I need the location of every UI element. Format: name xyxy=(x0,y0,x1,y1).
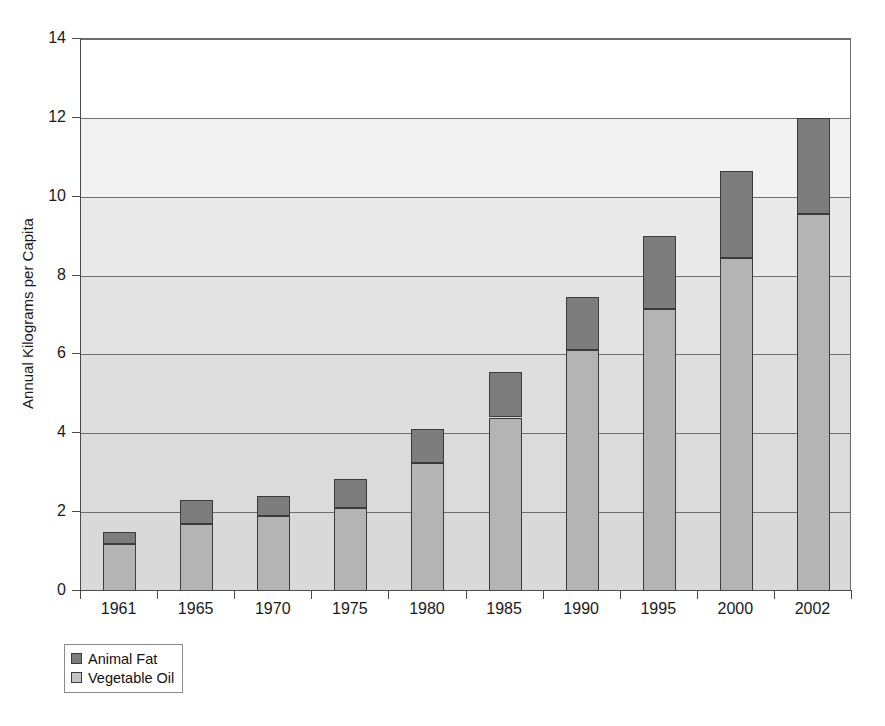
y-axis-tick-label: 12 xyxy=(26,108,66,126)
plot-area xyxy=(80,38,851,590)
bar-segment-vegetable-oil xyxy=(103,544,136,591)
x-axis-tick-label: 2000 xyxy=(700,600,770,618)
bar-group xyxy=(411,39,444,591)
x-axis-tick xyxy=(466,591,467,599)
x-axis-tick-label: 1995 xyxy=(623,600,693,618)
bar-group xyxy=(334,39,367,591)
x-axis-tick xyxy=(774,591,775,599)
y-axis-tick xyxy=(72,275,80,276)
bar-segment-vegetable-oil xyxy=(720,258,753,591)
y-axis-tick xyxy=(72,196,80,197)
x-axis-tick xyxy=(234,591,235,599)
y-axis-title: Annual Kilograms per Capita xyxy=(19,184,36,444)
x-axis-tick xyxy=(80,591,81,599)
bar-segment-vegetable-oil xyxy=(334,508,367,591)
y-axis-tick-label: 0 xyxy=(26,581,66,599)
y-axis-tick xyxy=(72,511,80,512)
legend-label: Vegetable Oil xyxy=(88,670,174,686)
x-axis-tick xyxy=(157,591,158,599)
x-axis-tick-label: 2002 xyxy=(777,600,847,618)
y-axis-tick xyxy=(72,353,80,354)
bar-segment-vegetable-oil xyxy=(797,214,830,591)
bar-group xyxy=(566,39,599,591)
y-axis-tick-label: 2 xyxy=(26,502,66,520)
legend-swatch-icon xyxy=(71,672,82,683)
bar-segment-vegetable-oil xyxy=(180,524,213,591)
bar-group xyxy=(720,39,753,591)
bar-segment-animal-fat xyxy=(566,297,599,350)
x-axis-tick xyxy=(697,591,698,599)
x-axis-tick-label: 1965 xyxy=(161,600,231,618)
x-axis-tick-label: 1975 xyxy=(315,600,385,618)
bar-segment-vegetable-oil xyxy=(411,463,444,591)
bar-segment-animal-fat xyxy=(180,500,213,524)
y-axis-line xyxy=(80,38,81,591)
y-axis-tick xyxy=(72,432,80,433)
bar-segment-animal-fat xyxy=(720,171,753,258)
bar-segment-vegetable-oil xyxy=(257,516,290,591)
legend-item-vegetable-oil: Vegetable Oil xyxy=(71,668,174,687)
y-axis-tick-label: 14 xyxy=(26,29,66,47)
x-axis-tick xyxy=(620,591,621,599)
y-axis-tick xyxy=(72,117,80,118)
bar-segment-vegetable-oil xyxy=(489,418,522,591)
y-axis-tick xyxy=(72,590,80,591)
legend-label: Animal Fat xyxy=(88,651,157,667)
legend-swatch-icon xyxy=(71,653,82,664)
bar-group xyxy=(257,39,290,591)
bar-segment-animal-fat xyxy=(797,118,830,215)
legend: Animal Fat Vegetable Oil xyxy=(64,644,183,693)
bar-segment-animal-fat xyxy=(334,479,367,509)
legend-item-animal-fat: Animal Fat xyxy=(71,649,174,668)
x-axis-tick-label: 1970 xyxy=(238,600,308,618)
x-axis-tick xyxy=(543,591,544,599)
x-axis-tick-label: 1985 xyxy=(469,600,539,618)
bar-group xyxy=(489,39,522,591)
stacked-bar-chart: 02468101214 1961196519701975198019851990… xyxy=(0,0,885,726)
bar-group xyxy=(643,39,676,591)
y-axis-tick xyxy=(72,38,80,39)
bar-segment-animal-fat xyxy=(489,372,522,417)
bar-segment-animal-fat xyxy=(103,532,136,544)
bar-segment-vegetable-oil xyxy=(566,350,599,591)
bar-segment-vegetable-oil xyxy=(643,309,676,591)
bar-segment-animal-fat xyxy=(257,496,290,516)
x-axis-tick xyxy=(851,591,852,599)
bar-group xyxy=(180,39,213,591)
x-axis-tick-label: 1961 xyxy=(84,600,154,618)
bar-segment-animal-fat xyxy=(643,236,676,309)
x-axis-tick xyxy=(311,591,312,599)
bar-group xyxy=(103,39,136,591)
bar-group xyxy=(797,39,830,591)
x-axis-tick-label: 1990 xyxy=(546,600,616,618)
x-axis-tick xyxy=(388,591,389,599)
x-axis-tick-label: 1980 xyxy=(392,600,462,618)
bar-segment-animal-fat xyxy=(411,429,444,463)
